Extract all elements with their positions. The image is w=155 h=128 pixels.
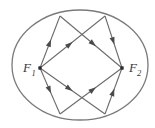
focus-dot-f2 <box>120 66 123 69</box>
focus-label-f1-subscript: 1 <box>32 68 36 78</box>
ellipse-reflection-figure: F 1 F 2 <box>0 0 155 128</box>
focus-dot-f1 <box>38 66 41 69</box>
figure-canvas: F 1 F 2 <box>0 0 155 128</box>
